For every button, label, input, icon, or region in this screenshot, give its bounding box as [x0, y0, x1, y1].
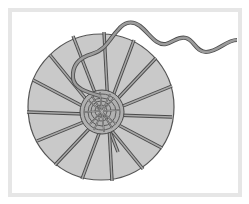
basket-weaving-illustration: [0, 0, 249, 204]
woven-center: [80, 90, 124, 134]
figure: Woven circular basket base with spokes a…: [0, 0, 249, 204]
